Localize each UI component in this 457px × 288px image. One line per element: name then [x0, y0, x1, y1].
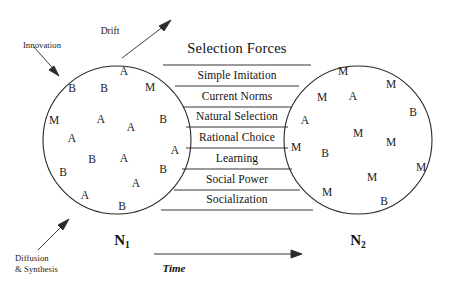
- agent-trait-right-8: M: [291, 142, 301, 154]
- evolutionary-process-diagram: Selection Forces Simple Imitation Curren…: [0, 0, 457, 288]
- agent-trait-left-7: B: [159, 114, 167, 126]
- agent-trait-left-11: A: [171, 145, 179, 157]
- agent-trait-left-15: A: [132, 178, 140, 190]
- agent-trait-left-5: A: [97, 114, 105, 126]
- diffusion-arrow: [38, 219, 69, 250]
- right-population-subscript: 2: [361, 240, 366, 250]
- band-label-natural-selection: Natural Selection: [196, 111, 278, 123]
- agent-trait-right-11: M: [367, 172, 377, 184]
- left-population-letter: N: [114, 232, 125, 248]
- agent-trait-left-10: A: [120, 153, 128, 165]
- agent-trait-left-1: B: [68, 83, 76, 95]
- agent-trait-left-6: A: [127, 122, 135, 134]
- band-label-simple-imitation: Simple Imitation: [197, 70, 276, 82]
- agent-trait-left-16: B: [118, 201, 126, 213]
- diffusion-synthesis-label: Diffusion & Synthesis: [15, 253, 58, 274]
- band-label-current-norms: Current Norms: [202, 91, 273, 103]
- agent-trait-right-13: B: [380, 196, 388, 208]
- agent-trait-right-12: M: [322, 187, 332, 199]
- agent-trait-left-13: B: [159, 164, 167, 176]
- agent-trait-right-0: M: [338, 66, 348, 78]
- band-label-social-power: Social Power: [206, 174, 268, 186]
- agent-trait-left-3: M: [145, 82, 155, 94]
- agent-trait-right-4: B: [409, 107, 417, 119]
- agent-trait-left-9: B: [88, 154, 96, 166]
- band-label-learning: Learning: [216, 153, 258, 165]
- agent-trait-right-6: M: [353, 128, 363, 140]
- time-arrow: [154, 250, 302, 258]
- agent-trait-right-9: B: [321, 148, 329, 160]
- innovation-label: Innovation: [23, 41, 61, 50]
- agent-trait-left-14: A: [81, 190, 89, 202]
- agent-trait-left-0: A: [120, 66, 128, 78]
- right-population-circle: [284, 66, 432, 214]
- agent-trait-left-12: B: [59, 167, 67, 179]
- agent-trait-left-8: A: [68, 133, 76, 145]
- agent-trait-left-4: M: [49, 115, 59, 127]
- agent-trait-right-5: A: [301, 115, 309, 127]
- agent-trait-right-2: M: [317, 92, 327, 104]
- agent-trait-right-3: A: [349, 91, 357, 103]
- agent-trait-left-2: B: [100, 83, 108, 95]
- right-population-letter: N: [350, 232, 361, 248]
- selection-forces-title: Selection Forces: [187, 41, 286, 56]
- left-population-subscript: 1: [125, 240, 130, 250]
- right-population-label: N2: [350, 233, 366, 248]
- innovation-arrow: [34, 47, 59, 76]
- left-population-circle: [43, 66, 191, 214]
- left-population-label: N1: [114, 233, 130, 248]
- agent-trait-right-10: M: [416, 162, 426, 174]
- band-label-rational-choice: Rational Choice: [199, 132, 275, 144]
- band-label-socialization: Socialization: [206, 194, 267, 206]
- drift-arrow: [122, 20, 171, 58]
- agent-trait-right-1: M: [386, 79, 396, 91]
- drift-label: Drift: [101, 26, 120, 36]
- time-axis-label: Time: [163, 263, 186, 274]
- agent-trait-right-7: M: [386, 137, 396, 149]
